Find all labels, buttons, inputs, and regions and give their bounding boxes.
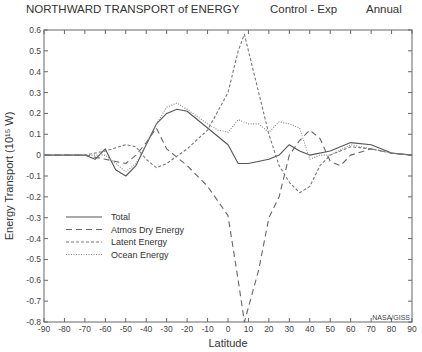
y-tick-label: -0.7 — [26, 296, 41, 306]
x-tick-label: 50 — [325, 324, 335, 334]
chart-legend: TotalAtmos Dry EnergyLatent EnergyOcean … — [66, 212, 185, 260]
y-tick-label: -0.2 — [26, 192, 41, 202]
legend-label: Latent Energy — [111, 237, 168, 247]
y-tick-label: -0.1 — [26, 171, 41, 181]
x-tick-label: -10 — [201, 324, 214, 334]
x-tick-label: 90 — [407, 324, 417, 334]
y-tick-label: -0.5 — [26, 254, 41, 264]
plot-series — [44, 34, 412, 322]
x-tick-label: -70 — [79, 324, 92, 334]
x-tick-label: 60 — [346, 324, 356, 334]
legend-label: Ocean Energy — [111, 250, 169, 260]
y-tick-label: 0.1 — [29, 129, 41, 139]
x-tick-label: -50 — [120, 324, 133, 334]
x-tick-label: 80 — [387, 324, 397, 334]
series-line-latent-energy — [44, 34, 412, 193]
y-tick-label: -0.4 — [26, 234, 41, 244]
y-tick-label: 0.6 — [29, 25, 41, 35]
series-line-ocean-energy — [44, 103, 412, 172]
y-tick-label: -0.6 — [26, 275, 41, 285]
x-tick-label: -80 — [58, 324, 71, 334]
x-tick-label: 20 — [264, 324, 274, 334]
x-tick-label: 10 — [244, 324, 254, 334]
legend-label: Atmos Dry Energy — [111, 225, 185, 235]
x-tick-label: 0 — [226, 324, 231, 334]
y-tick-label: 0.4 — [29, 67, 41, 77]
y-axis-title: Energy Transport (10¹⁵ W) — [3, 112, 15, 241]
x-tick-label: 30 — [285, 324, 295, 334]
y-tick-label: -0.8 — [26, 317, 41, 327]
y-tick-label: 0.5 — [29, 46, 41, 56]
credit-label: NASA/GISS — [372, 314, 410, 321]
y-tick-label: 0.3 — [29, 88, 41, 98]
x-tick-label: 40 — [305, 324, 315, 334]
x-tick-label: -20 — [181, 324, 194, 334]
x-tick-label: -60 — [99, 324, 112, 334]
y-tick-label: 0.2 — [29, 108, 41, 118]
plot-axes: -90-80-70-60-50-40-30-20-100102030405060… — [26, 25, 417, 334]
x-axis-title: Latitude — [208, 337, 247, 349]
series-line-atmos-dry-energy — [44, 128, 412, 322]
x-tick-label: -40 — [140, 324, 153, 334]
legend-label: Total — [111, 212, 130, 222]
y-tick-label: 0 — [36, 150, 41, 160]
line-chart: -90-80-70-60-50-40-30-20-100102030405060… — [0, 0, 422, 352]
series-line-total — [44, 109, 412, 176]
y-tick-label: -0.3 — [26, 213, 41, 223]
x-tick-label: 70 — [366, 324, 376, 334]
x-tick-label: -30 — [161, 324, 174, 334]
plot-frame — [44, 30, 412, 322]
